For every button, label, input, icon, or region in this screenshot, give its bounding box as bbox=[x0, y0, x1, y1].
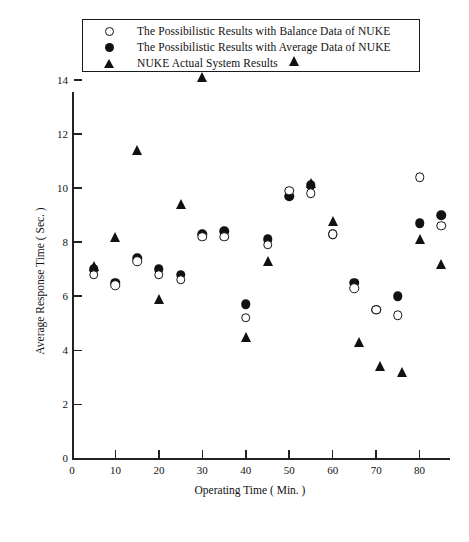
data-point-open-circle bbox=[132, 256, 142, 266]
y-tick-10 bbox=[74, 187, 82, 189]
data-point-filled-triangle bbox=[415, 234, 425, 244]
y-tick-label-10: 10 bbox=[44, 182, 68, 194]
y-tick-label-4: 4 bbox=[44, 344, 68, 356]
x-tick-label-20: 20 bbox=[146, 464, 172, 476]
x-tick-label-0: 0 bbox=[59, 464, 85, 476]
data-point-filled-triangle bbox=[436, 259, 446, 269]
x-tick-50 bbox=[288, 450, 290, 458]
x-axis-title: Operating Time ( Min. ) bbox=[150, 484, 350, 496]
data-point-filled-triangle bbox=[263, 256, 273, 266]
x-tick-10 bbox=[115, 450, 117, 458]
x-tick-30 bbox=[202, 450, 204, 458]
data-point-open-circle bbox=[176, 275, 186, 285]
data-point-open-circle bbox=[111, 281, 121, 291]
data-point-filled-triangle bbox=[110, 232, 120, 242]
data-point-open-circle bbox=[328, 229, 338, 239]
x-tick-label-70: 70 bbox=[363, 464, 389, 476]
scatter-chart-figure: The Possibilistic Results with Balance D… bbox=[0, 0, 469, 542]
data-point-filled-triangle bbox=[241, 332, 251, 342]
data-point-open-circle bbox=[350, 283, 360, 293]
data-point-filled-triangle bbox=[176, 199, 186, 209]
data-point-open-circle bbox=[306, 189, 316, 199]
data-point-filled-triangle bbox=[154, 294, 164, 304]
y-tick-label-2: 2 bbox=[44, 398, 68, 410]
x-tick-label-50: 50 bbox=[276, 464, 302, 476]
x-tick-60 bbox=[332, 450, 334, 458]
y-tick-6 bbox=[74, 295, 82, 297]
x-axis-line bbox=[72, 458, 450, 460]
data-point-filled-triangle bbox=[328, 216, 338, 226]
y-tick-2 bbox=[74, 404, 82, 406]
data-point-open-circle bbox=[284, 186, 294, 196]
y-tick-label-12: 12 bbox=[44, 128, 68, 140]
x-tick-80 bbox=[419, 450, 421, 458]
data-point-filled-circle bbox=[241, 300, 251, 310]
data-point-filled-triangle bbox=[289, 56, 299, 66]
x-tick-70 bbox=[375, 450, 377, 458]
y-tick-14 bbox=[74, 79, 82, 81]
data-point-open-circle bbox=[219, 232, 229, 242]
y-tick-label-6: 6 bbox=[44, 290, 68, 302]
data-point-filled-triangle bbox=[197, 72, 207, 82]
y-tick-label-0: 0 bbox=[44, 452, 68, 464]
x-tick-label-80: 80 bbox=[407, 464, 433, 476]
data-point-filled-triangle bbox=[375, 361, 385, 371]
y-axis-title: Average Response Time ( Sec. ) bbox=[34, 166, 46, 396]
data-point-filled-triangle bbox=[132, 145, 142, 155]
y-tick-label-8: 8 bbox=[44, 236, 68, 248]
data-point-open-circle bbox=[198, 232, 208, 242]
x-tick-label-10: 10 bbox=[102, 464, 128, 476]
data-point-filled-circle bbox=[415, 218, 425, 228]
x-tick-20 bbox=[158, 450, 160, 458]
data-point-open-circle bbox=[154, 270, 164, 280]
data-point-filled-triangle bbox=[354, 337, 364, 347]
x-tick-40 bbox=[245, 450, 247, 458]
y-tick-0 bbox=[74, 458, 82, 460]
data-point-open-circle bbox=[437, 221, 447, 231]
y-tick-12 bbox=[74, 133, 82, 135]
data-point-open-circle bbox=[415, 173, 425, 183]
x-tick-label-40: 40 bbox=[233, 464, 259, 476]
x-tick-label-30: 30 bbox=[189, 464, 215, 476]
y-tick-8 bbox=[74, 241, 82, 243]
y-tick-4 bbox=[74, 350, 82, 352]
data-point-filled-triangle bbox=[397, 367, 407, 377]
data-point-filled-circle bbox=[437, 210, 447, 220]
data-point-open-circle bbox=[263, 240, 273, 250]
data-point-open-circle bbox=[241, 313, 251, 323]
data-point-open-circle bbox=[393, 310, 403, 320]
plot-area: 02468101214 01020304050607080 Average Re… bbox=[0, 0, 469, 542]
data-point-open-circle bbox=[89, 270, 99, 280]
x-tick-label-60: 60 bbox=[320, 464, 346, 476]
data-point-open-circle bbox=[371, 305, 381, 315]
y-tick-label-14: 14 bbox=[44, 74, 68, 86]
data-point-filled-circle bbox=[393, 291, 403, 301]
